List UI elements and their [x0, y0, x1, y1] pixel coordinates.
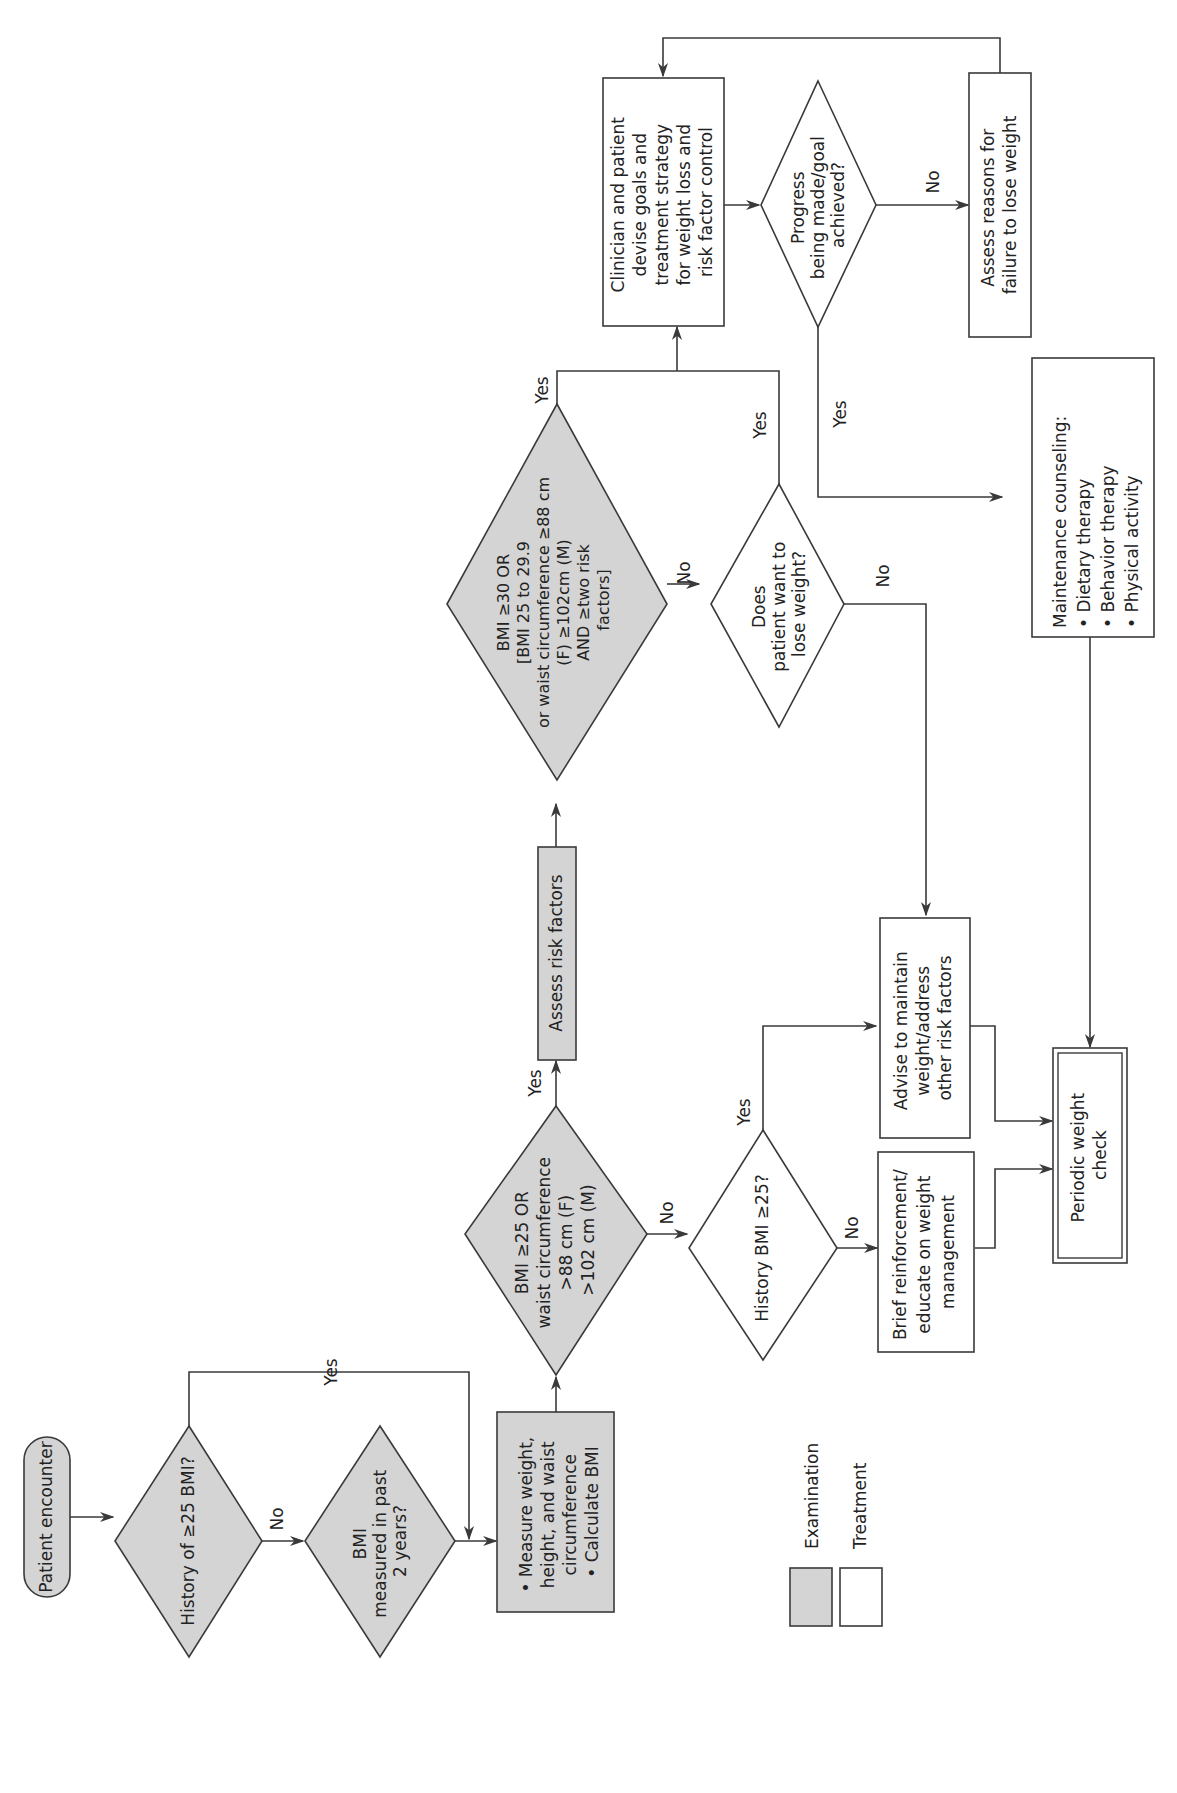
legend-swatch-examination [790, 1568, 832, 1626]
node-assess-risk-factors[interactable]: Assess risk factors [538, 847, 576, 1060]
label-bmi30-yes: Yes [532, 376, 552, 405]
node-text: Maintenance counseling: [1050, 416, 1070, 628]
svg-text:Assess risk factors: Assess risk factors [546, 874, 566, 1032]
label-bmi25-no: No [657, 1201, 677, 1224]
node-text: patient want to [769, 542, 789, 672]
node-text: AND ≥two risk [574, 544, 593, 661]
label-history-no: No [267, 1507, 287, 1530]
node-maintenance-counseling[interactable]: Maintenance counseling: • Dietary therap… [1032, 358, 1154, 637]
node-text: • Physical activity [1122, 475, 1142, 628]
node-bmi-measured[interactable]: BMI measured in past 2 years? [305, 1426, 455, 1657]
svg-text:Patient encounter: Patient encounter [36, 1441, 56, 1592]
node-text: • Measure weight, [516, 1437, 536, 1593]
node-text: circumference [560, 1454, 580, 1575]
edge-brief-to-periodic [975, 1169, 1052, 1248]
node-text: other risk factors [935, 955, 955, 1100]
flowchart: Patient encounter History of ≥25 BMI? BM… [0, 0, 1177, 1793]
node-advise-maintain[interactable]: Advise to maintain weight/address other … [880, 918, 970, 1138]
node-text: educate on weight [914, 1175, 934, 1334]
edge-labels: Yes No Yes No Yes No Yes No Yes No Yes N… [267, 170, 943, 1530]
node-history-25-bmi[interactable]: History of ≥25 BMI? [115, 1426, 262, 1657]
node-text: >88 cm (F) [556, 1195, 576, 1291]
node-text: Periodic weight [1068, 1092, 1088, 1222]
node-text: History BMI ≥25? [752, 1174, 772, 1322]
node-text: >102 cm (M) [578, 1184, 598, 1295]
edge-reasons-to-clinician [663, 38, 1000, 76]
label-history-yes: Yes [321, 1358, 341, 1387]
node-text: for weight loss and [674, 124, 694, 286]
legend-swatch-treatment [840, 1568, 882, 1626]
node-bmi-25-decision[interactable]: BMI ≥25 OR waist circumference >88 cm (F… [465, 1106, 647, 1375]
node-bmi-30-decision[interactable]: BMI ≥30 OR [BMI 25 to 29.9 or waist circ… [447, 404, 667, 780]
node-text: failure to lose weight [1000, 115, 1020, 294]
svg-text:History BMI ≥25?: History BMI ≥25? [752, 1174, 772, 1322]
node-assess-reasons[interactable]: Assess reasons for failure to lose weigh… [969, 73, 1031, 337]
node-text: measured in past [370, 1469, 390, 1617]
label-want-yes: Yes [750, 411, 770, 440]
node-want-lose-weight[interactable]: Does patient want to lose weight? [711, 484, 844, 727]
node-text: devise goals and [630, 133, 650, 276]
label-progress-no: No [923, 170, 943, 193]
node-patient-encounter[interactable]: Patient encounter [24, 1437, 70, 1597]
label-hist25-yes: Yes [734, 1098, 754, 1127]
node-text: or waist circumference ≥88 cm [534, 477, 553, 728]
legend: Examination Treatment [790, 1443, 882, 1626]
node-text: Clinician and patient [608, 117, 628, 293]
node-brief-reinforcement[interactable]: Brief reinforcement/ educate on weight m… [878, 1152, 974, 1352]
label-want-no: No [873, 564, 893, 587]
svg-text:Clinician and patient de: Clinician and patient devise goals and t… [608, 112, 716, 293]
node-periodic-weight-check[interactable]: Periodic weight check [1053, 1048, 1127, 1263]
legend-label-examination: Examination [802, 1443, 822, 1549]
svg-text:History of ≥25 BMI?: History of ≥25 BMI? [178, 1456, 198, 1625]
node-text: • Dietary therapy [1074, 479, 1094, 628]
node-text: [BMI 25 to 29.9 [514, 541, 533, 664]
node-text: Progress [788, 171, 808, 244]
legend-label-treatment: Treatment [850, 1462, 870, 1550]
node-text: weight/address [913, 966, 933, 1096]
node-text: History of ≥25 BMI? [178, 1456, 198, 1625]
svg-text:Advise to maintain weigh: Advise to maintain weight/address other … [891, 946, 955, 1111]
node-text: Advise to maintain [891, 951, 911, 1110]
node-text: • Calculate BMI [582, 1446, 602, 1578]
node-text: Patient encounter [36, 1441, 56, 1592]
edge-want-no [844, 604, 926, 915]
label-bmi25-yes: Yes [525, 1069, 545, 1098]
node-progress-decision[interactable]: Progress being made/goal achieved? [761, 81, 876, 327]
node-history-bmi-25[interactable]: History BMI ≥25? [689, 1130, 837, 1360]
node-text: waist circumference [534, 1157, 554, 1328]
node-text: BMI ≥25 OR [512, 1191, 532, 1294]
node-text: check [1090, 1130, 1110, 1180]
node-text: 2 years? [390, 1505, 410, 1577]
node-text: treatment strategy [652, 124, 672, 286]
label-bmi30-no: No [674, 561, 694, 584]
node-text: lose weight? [789, 551, 809, 657]
node-text: achieved? [828, 162, 848, 248]
edge-advise-to-periodic [970, 1026, 1052, 1121]
node-text: Assess risk factors [546, 874, 566, 1032]
node-measure[interactable]: • Measure weight, height, and waist circ… [497, 1412, 614, 1612]
node-text: Assess reasons for [978, 129, 998, 287]
label-hist25-no: No [842, 1216, 862, 1239]
label-progress-yes: Yes [830, 400, 850, 429]
node-text: management [938, 1195, 958, 1309]
node-text: Brief reinforcement/ [890, 1169, 910, 1340]
node-text: risk factor control [696, 127, 716, 277]
edge-hist25-yes [763, 1026, 876, 1130]
node-clinician-goals[interactable]: Clinician and patient devise goals and t… [603, 78, 724, 326]
node-text: factors] [594, 569, 613, 630]
node-text: BMI ≥30 OR [494, 554, 513, 651]
node-text: BMI [350, 1528, 370, 1559]
node-text: (F) ≥102cm (M) [554, 539, 573, 665]
node-text: Does [749, 585, 769, 628]
node-text: • Behavior therapy [1098, 466, 1118, 628]
node-text: being made/goal [808, 136, 828, 279]
node-text: height, and waist [538, 1441, 558, 1588]
